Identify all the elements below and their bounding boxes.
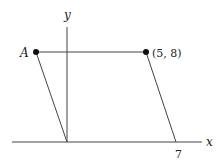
parallelogram-diagram: y x A (5, 8) 7 [0,0,223,164]
x-tick-7-label: 7 [175,148,182,161]
point-a [33,49,39,55]
y-axis-label: y [63,8,71,22]
point-5-8-label: (5, 8) [152,47,182,60]
point-5-8 [143,49,149,55]
point-a-label: A [19,46,29,60]
x-axis-label: x [206,135,213,149]
right-side [146,52,176,142]
diagram-svg: y x A (5, 8) 7 [0,0,223,164]
left-side [36,52,67,142]
